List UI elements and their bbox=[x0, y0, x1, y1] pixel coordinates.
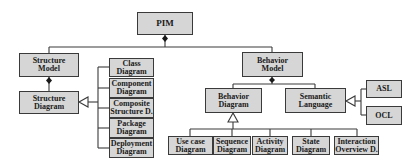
node-structure-model[interactable]: Structure Model bbox=[19, 53, 79, 77]
node-use-case-diagram[interactable]: Use case Diagram bbox=[168, 136, 213, 155]
generalization-triangle-icon bbox=[228, 113, 238, 122]
node-state-diagram[interactable]: State Diagram bbox=[292, 136, 330, 155]
node-interaction-overview-diagram[interactable]: Interaction Overview D. bbox=[334, 136, 379, 155]
node-composite-structure-diagram[interactable]: Composite Structure D. bbox=[109, 98, 154, 118]
node-behavior-diagram[interactable]: Behavior Diagram bbox=[205, 88, 262, 113]
node-sequence-diagram[interactable]: Sequence Diagram bbox=[213, 136, 251, 155]
diamond-icons bbox=[46, 35, 275, 84]
node-ocl[interactable]: OCL bbox=[366, 106, 402, 125]
node-behavior-model[interactable]: Behavior Model bbox=[242, 52, 303, 77]
composition-diamond-icon bbox=[269, 77, 275, 83]
node-asl[interactable]: ASL bbox=[366, 80, 402, 98]
composition-diamond-icon bbox=[162, 35, 168, 42]
node-pim[interactable]: PIM bbox=[137, 12, 193, 35]
node-deployment-diagram[interactable]: Deployment Diagram bbox=[109, 138, 154, 158]
node-package-diagram[interactable]: Package Diagram bbox=[109, 118, 154, 138]
generalization-triangle-icon bbox=[346, 96, 355, 106]
uml-diagram-canvas: PIM Structure Model Structure Diagram Cl… bbox=[0, 0, 420, 165]
node-class-diagram[interactable]: Class Diagram bbox=[109, 58, 154, 77]
node-semantic-language[interactable]: Semantic Language bbox=[285, 88, 346, 113]
node-activity-diagram[interactable]: Activity Diagram bbox=[252, 136, 288, 155]
composition-diamond-icon bbox=[46, 77, 52, 84]
node-component-diagram[interactable]: Component Diagram bbox=[109, 78, 154, 98]
generalization-triangle-icon bbox=[79, 97, 88, 107]
node-structure-diagram[interactable]: Structure Diagram bbox=[19, 91, 79, 114]
